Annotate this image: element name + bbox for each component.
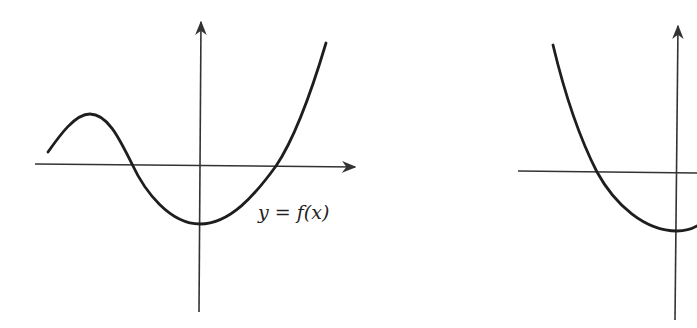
left-curve — [48, 43, 326, 224]
left-graph — [35, 22, 355, 312]
right-graph — [518, 26, 697, 320]
figure: y = f(x) — [0, 0, 697, 328]
graphs-canvas — [0, 0, 697, 328]
left-y-axis — [199, 22, 201, 312]
left-x-axis — [35, 164, 355, 167]
left-graph-label: y = f(x) — [258, 201, 329, 223]
right-x-axis — [518, 171, 697, 173]
